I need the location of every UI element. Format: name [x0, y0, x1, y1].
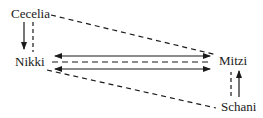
node-nikki: Nikki	[15, 55, 45, 68]
edge-nikki-schani-dashed	[47, 70, 216, 108]
relationship-diagram: Cecelia Nikki Mitzi Schani	[0, 0, 263, 118]
node-mitzi: Mitzi	[219, 54, 247, 67]
edge-cecelia-mitzi-dashed	[51, 15, 217, 55]
node-cecelia: Cecelia	[11, 7, 50, 20]
node-schani: Schani	[221, 100, 256, 113]
